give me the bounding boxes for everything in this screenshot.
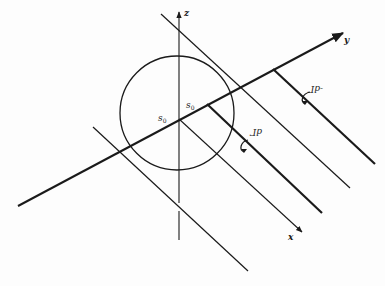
y-axis-label: y xyxy=(344,36,349,45)
diagram-canvas: z y x s0 s0 dΓ -dΓ xyxy=(0,0,385,286)
x-axis-label: x xyxy=(288,233,293,242)
y-axis xyxy=(18,33,343,206)
s0-right-label: s0 xyxy=(186,101,194,111)
s0-left-label: s0 xyxy=(158,114,166,124)
dgamma-line xyxy=(207,104,322,213)
dgamma-label: dΓ xyxy=(250,127,262,136)
lower-tangent-line xyxy=(93,127,248,271)
neg-dgamma-label: -dΓ xyxy=(308,84,323,93)
diagram-svg xyxy=(0,0,385,286)
neg-dgamma-line xyxy=(273,69,375,164)
z-axis-label: z xyxy=(184,9,189,18)
